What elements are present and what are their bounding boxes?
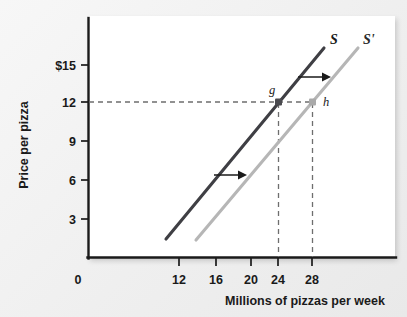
y-tick-label-6: 6 <box>69 174 76 188</box>
point-g-marker <box>275 99 282 106</box>
shift-arrow-lower-head <box>238 171 247 180</box>
y-axis-title: Price per pizza <box>17 100 31 189</box>
x-tick-labels: 0 12 16 20 24 28 <box>75 273 319 287</box>
supply-curve-s-prime <box>196 48 358 240</box>
x-tick-label-20: 20 <box>244 273 258 287</box>
x-tick-label-28: 28 <box>305 273 319 287</box>
curve-label-s: S <box>330 32 338 47</box>
point-markers-group <box>275 99 316 106</box>
y-tick-label-12: 12 <box>62 96 76 110</box>
x-axis-title: Millions of pizzas per week <box>225 294 385 308</box>
figure-container: $15 12 9 6 3 0 12 16 20 24 28 Price per … <box>0 0 407 317</box>
x-tick-label-12: 12 <box>172 273 186 287</box>
point-label-h: h <box>323 95 329 109</box>
supply-shift-chart: $15 12 9 6 3 0 12 16 20 24 28 Price per … <box>0 0 407 317</box>
y-tick-labels: $15 12 9 6 3 <box>55 59 76 227</box>
origin-label: 0 <box>75 273 82 287</box>
point-h-marker <box>309 99 316 106</box>
x-tick-label-16: 16 <box>209 273 223 287</box>
shift-arrow-lower <box>214 171 247 180</box>
y-tick-label-15: $15 <box>55 59 76 73</box>
x-tick-label-24: 24 <box>271 273 285 287</box>
y-tick-label-9: 9 <box>69 135 76 149</box>
point-label-g: g <box>269 83 275 97</box>
axes-group <box>88 18 397 259</box>
curve-label-s-prime: S' <box>363 32 375 47</box>
y-tick-label-3: 3 <box>69 213 76 227</box>
